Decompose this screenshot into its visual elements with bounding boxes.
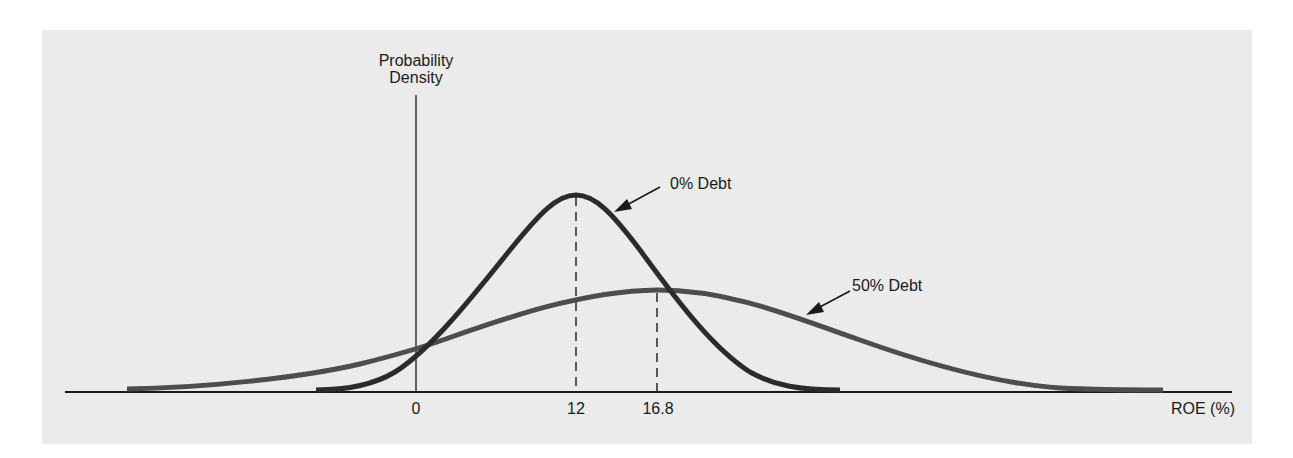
curve-0-debt: [316, 195, 840, 390]
arrow-50-debt-line: [818, 291, 850, 308]
curve-50-debt: [127, 290, 1163, 390]
x-tick-12: 12: [567, 400, 585, 417]
annotation-50-debt: 50% Debt: [852, 277, 922, 294]
y-axis-label: Probability Density: [360, 52, 472, 86]
annotation-0-debt: 0% Debt: [670, 175, 731, 192]
x-axis-label: ROE (%): [1171, 400, 1235, 417]
x-tick-0: 0: [412, 400, 421, 417]
x-tick-16-8: 16.8: [642, 400, 673, 417]
arrow-50-debt-head: [806, 302, 824, 315]
y-axis-label-line2: Density: [360, 69, 472, 86]
arrow-0-debt-line: [625, 187, 660, 206]
arrow-0-debt-head: [614, 199, 632, 212]
y-axis-label-line1: Probability: [360, 52, 472, 69]
chart-canvas: [0, 0, 1293, 458]
